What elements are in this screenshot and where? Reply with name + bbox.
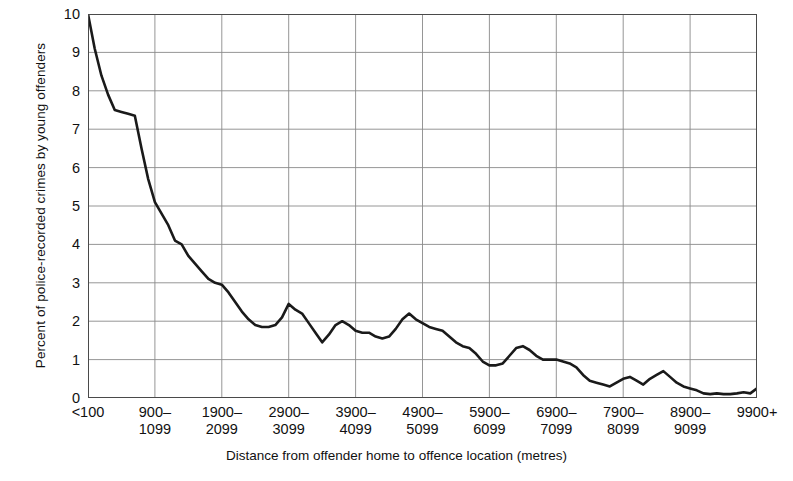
x-axis-tick-label: 9900+ (697, 404, 793, 421)
y-axis-tick-label: 1 (40, 352, 80, 368)
x-axis-tick-labels: <100900– 10991900– 20992900– 30993900– 4… (0, 404, 793, 450)
y-axis-tick-label: 9 (40, 44, 80, 60)
y-axis-tick-label: 2 (40, 313, 80, 329)
y-axis-tick-label: 5 (40, 198, 80, 214)
y-axis-tick-label: 8 (40, 83, 80, 99)
y-axis-tick-label: 4 (40, 236, 80, 252)
line-chart-svg (88, 14, 757, 398)
y-axis-tick-label: 7 (40, 121, 80, 137)
x-axis-title: Distance from offender home to offence l… (0, 448, 793, 463)
chart-figure: Percent of police-recorded crimes by you… (0, 0, 793, 481)
y-axis-tick-label: 3 (40, 275, 80, 291)
plot-area (88, 14, 757, 398)
y-axis-tick-label: 6 (40, 160, 80, 176)
y-axis-tick-label: 10 (40, 6, 80, 22)
